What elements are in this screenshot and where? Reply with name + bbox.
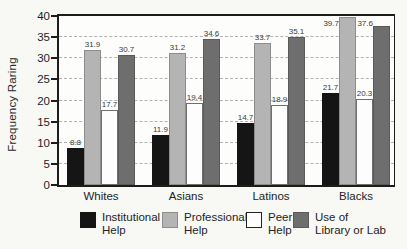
bar-value-label: 39.7	[313, 19, 339, 28]
bar-value-label: 34.6	[199, 29, 225, 38]
bar-whites-3	[118, 55, 135, 185]
y-tick-mark	[51, 121, 57, 123]
legend-entry-0: InstitutionalHelp	[80, 211, 160, 237]
bar-whites-0	[67, 148, 84, 185]
bar-blacks-2	[356, 99, 373, 185]
y-tick-label: 5	[16, 157, 50, 171]
x-category-label-blacks: Blacks	[322, 190, 390, 202]
legend-label: ProfessionalHelp	[184, 211, 247, 237]
bar-value-label: 31.9	[80, 40, 106, 49]
legend-label: Use ofLibrary or Lab	[315, 211, 386, 237]
bar-whites-1	[84, 50, 101, 185]
y-tick-label: 15	[16, 115, 50, 129]
bar-value-label: 37.6	[347, 19, 373, 28]
bar-whites-2	[101, 110, 118, 185]
bar-latinos-3	[288, 37, 305, 185]
y-tick-label: 30	[16, 51, 50, 65]
legend-label: InstitutionalHelp	[102, 211, 160, 237]
y-tick-mark	[51, 57, 57, 59]
bar-value-label: 30.7	[114, 45, 140, 54]
bar-latinos-1	[254, 43, 271, 185]
y-tick-mark	[51, 142, 57, 144]
bar-chart-figure: Frequency Raring 8.831.917.730.711.931.2…	[0, 0, 407, 249]
y-tick-label: 25	[16, 72, 50, 86]
legend-swatch	[246, 212, 262, 228]
bar-asians-2	[186, 103, 203, 185]
y-tick-mark	[51, 36, 57, 38]
bar-asians-0	[152, 135, 169, 185]
bar-latinos-0	[237, 123, 254, 185]
x-category-label-asians: Asians	[152, 190, 220, 202]
bar-blacks-1	[339, 17, 356, 185]
y-tick-label: 40	[16, 9, 50, 23]
legend-entry-3: Use ofLibrary or Lab	[293, 211, 386, 237]
bar-blacks-3	[373, 26, 390, 185]
bar-asians-3	[203, 39, 220, 185]
bar-asians-1	[169, 53, 186, 185]
plot-area: 8.831.917.730.711.931.219.434.614.733.71…	[57, 14, 395, 187]
bar-latinos-2	[271, 105, 288, 185]
legend-swatch	[80, 212, 96, 228]
y-tick-mark	[51, 184, 57, 186]
legend-label: PeerHelp	[268, 211, 292, 237]
legend-swatch	[293, 212, 309, 228]
x-category-label-whites: Whites	[67, 190, 135, 202]
legend-entry-2: PeerHelp	[246, 211, 292, 237]
y-tick-mark	[51, 78, 57, 80]
bar-value-label: 33.7	[250, 33, 276, 42]
y-tick-label: 0	[16, 178, 50, 192]
bar-value-label: 35.1	[284, 27, 310, 36]
y-tick-label: 10	[16, 136, 50, 150]
legend-swatch	[162, 212, 178, 228]
bar-value-label: 31.2	[165, 43, 191, 52]
y-tick-label: 35	[16, 30, 50, 44]
y-tick-label: 20	[16, 94, 50, 108]
y-tick-mark	[51, 100, 57, 102]
x-category-label-latinos: Latinos	[237, 190, 305, 202]
legend-entry-1: ProfessionalHelp	[162, 211, 247, 237]
bar-blacks-0	[322, 93, 339, 185]
y-tick-mark	[51, 15, 57, 17]
y-tick-mark	[51, 163, 57, 165]
